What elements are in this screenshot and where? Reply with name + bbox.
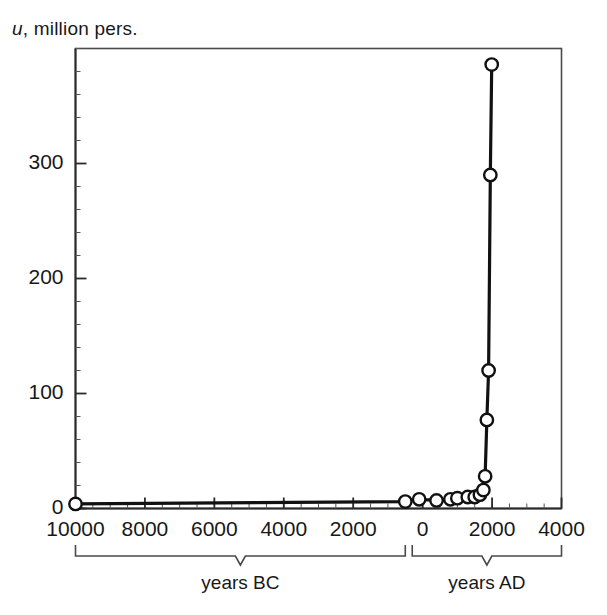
years-bc-label: years BC <box>150 572 330 594</box>
y-tick-label: 300 <box>28 150 63 174</box>
y-tick-label: 200 <box>28 265 63 289</box>
population-growth-chart: u, million pers. 0100200300 100008000600… <box>0 0 607 615</box>
data-point-marker <box>430 494 442 506</box>
data-point-marker <box>479 470 491 482</box>
years-ad-bracket <box>412 545 561 565</box>
data-point-marker <box>486 58 498 70</box>
data-point-marker <box>482 364 494 376</box>
data-point-marker <box>484 169 496 181</box>
years-ad-label: years AD <box>397 572 577 594</box>
y-tick-label: 0 <box>52 495 64 519</box>
data-point-marker <box>413 493 425 505</box>
years-bc-bracket <box>76 545 406 565</box>
x-tick-label: 4000 <box>512 517 607 541</box>
data-point-marker <box>477 484 489 496</box>
data-point-marker <box>69 498 81 510</box>
y-tick-label: 100 <box>28 380 63 404</box>
data-point-marker <box>399 495 411 507</box>
data-point-marker <box>481 414 493 426</box>
